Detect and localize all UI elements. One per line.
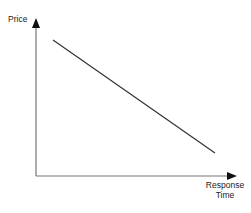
x-axis-arrow-icon xyxy=(227,172,237,180)
x-axis-label-line2: Time xyxy=(204,190,246,200)
y-axis-arrow-icon xyxy=(32,18,40,28)
x-axis-label-line1: Response xyxy=(204,180,246,190)
y-axis-label: Price xyxy=(8,14,27,24)
x-axis-label: Response Time xyxy=(204,180,246,200)
price-line xyxy=(53,40,215,153)
